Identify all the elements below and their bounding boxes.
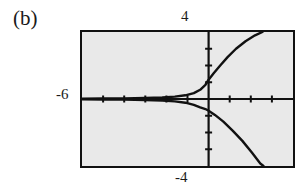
curve-lower-branch [82,99,263,166]
curve-upper-branch [82,32,262,99]
y-min-label: -4 [175,169,188,185]
figure-panel: (b) 4 -6 -4 [0,0,303,187]
calculator-screen [80,30,295,168]
x-min-label: -6 [56,86,69,102]
plot-canvas [82,32,293,166]
panel-label: (b) [13,6,38,30]
y-max-label: 4 [181,8,189,24]
